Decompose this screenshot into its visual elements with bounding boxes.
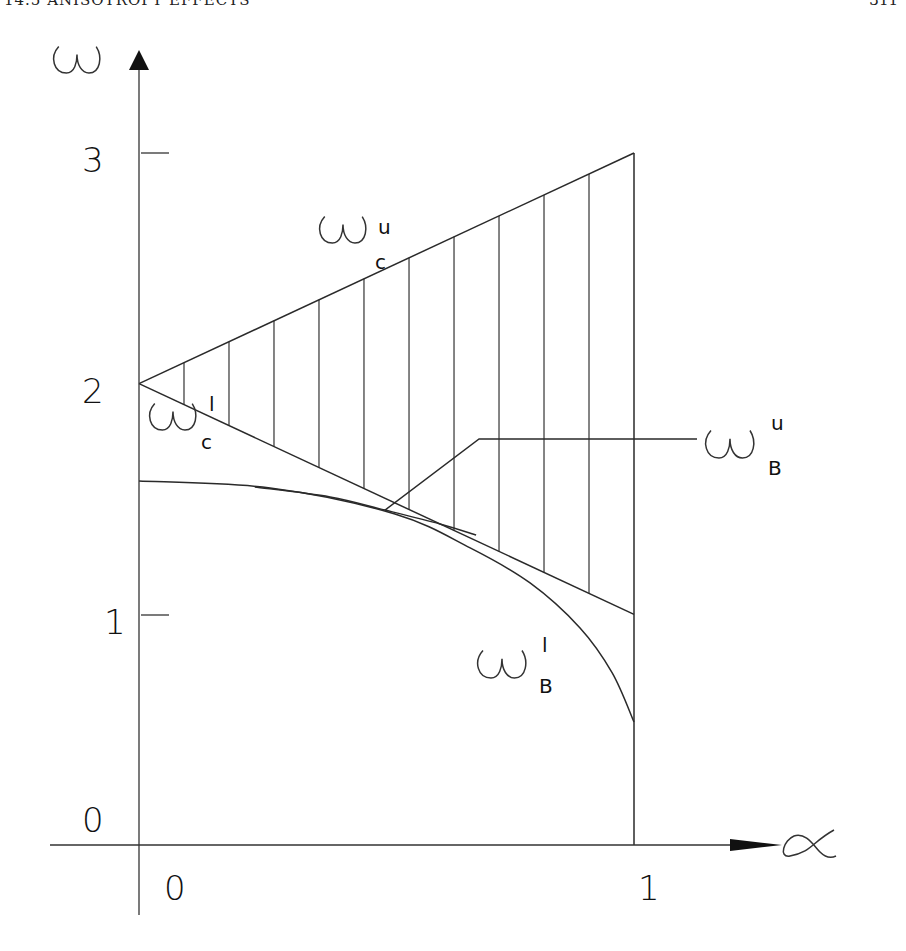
label-omega-c-l-sub: c — [201, 430, 212, 454]
label-omega-b-u-sup: u — [771, 411, 784, 435]
label-omega-c-u — [320, 217, 366, 243]
x-tick-label-1: 1 — [638, 868, 660, 908]
hatch-lines — [184, 153, 634, 845]
label-omega-b-u — [706, 431, 754, 459]
series-labels: cuclBuBl — [54, 47, 836, 858]
series-lines — [139, 153, 697, 722]
y-axis-arrow-icon — [129, 50, 149, 70]
label-omega-b-l-sub: B — [539, 674, 553, 698]
label-omega-c-u-sub: c — [375, 250, 386, 274]
y-axis-label-omega — [54, 47, 100, 73]
y-tick-label-2: 2 — [82, 371, 104, 411]
label-omega-b-l-sup: l — [542, 633, 548, 657]
label-omega-c-l-sup: l — [209, 392, 215, 416]
label-omega-c-u-sup: u — [378, 215, 391, 239]
tick-labels: 012301 — [82, 140, 660, 908]
y-tick-label-0: 0 — [82, 800, 104, 840]
series-omega-c-l — [139, 384, 634, 615]
y-tick-label-1: 1 — [104, 602, 126, 642]
series-omega-b-u — [255, 487, 476, 535]
label-omega-b-u-sub: B — [768, 456, 782, 480]
x-axis-arrow-icon — [730, 839, 782, 851]
omega-b-u-leader-line — [385, 439, 697, 510]
label-omega-b-l — [478, 651, 526, 679]
y-tick-label-3: 3 — [82, 140, 104, 180]
series-omega-c-u — [139, 153, 634, 384]
series-omega-b-l — [139, 481, 634, 722]
x-tick-label-0: 0 — [164, 868, 186, 908]
x-axis-label-alpha — [783, 830, 836, 857]
phase-diagram-chart: 012301 cuclBuBl — [0, 0, 906, 951]
